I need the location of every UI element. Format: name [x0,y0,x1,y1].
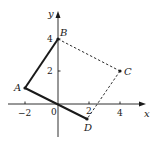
y-axis-arrow-icon [56,11,61,18]
y-tick-label-2: 2 [47,66,53,76]
point-a [23,86,26,89]
point-d [85,117,88,120]
segment-ab [25,39,58,88]
diagram-canvas: y x 0 −2 2 4 2 4 A B C D [0,0,152,145]
segment-bc [58,39,120,71]
x-axis-arrow-icon [139,102,146,107]
x-tick-label-4: 4 [117,108,123,118]
coordinate-diagram: y x 0 −2 2 4 2 4 A B C D [0,0,152,145]
point-label-b: B [59,27,67,38]
y-tick-label-4: 4 [47,34,53,44]
point-label-c: C [124,66,132,77]
y-axis-label: y [47,8,54,19]
x-tick-label-2: 2 [86,106,92,116]
point-label-d: D [83,122,92,133]
x-axis-label: x [144,108,150,119]
point-label-a: A [13,82,21,93]
segment-cd [87,71,120,119]
x-axis [8,102,146,107]
axis-labels: y x 0 −2 2 4 2 4 [18,8,150,119]
points [23,37,121,120]
point-c [118,69,121,72]
origin-label: 0 [51,107,57,117]
quadrilateral [25,39,120,119]
x-tick-label-neg2: −2 [18,108,31,118]
